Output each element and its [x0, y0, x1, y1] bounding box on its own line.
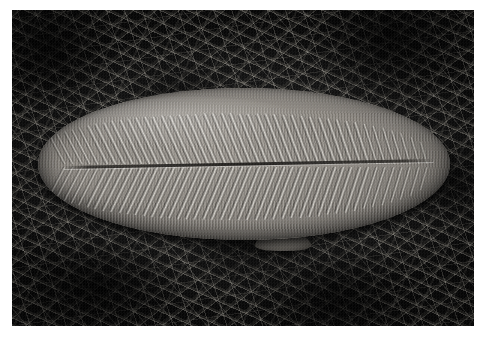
body-rim-shading	[38, 88, 450, 240]
figure-caption	[12, 336, 474, 346]
fossil-photograph	[12, 10, 474, 326]
dickinsonia-fossil	[38, 88, 450, 240]
figure-root	[0, 0, 489, 346]
